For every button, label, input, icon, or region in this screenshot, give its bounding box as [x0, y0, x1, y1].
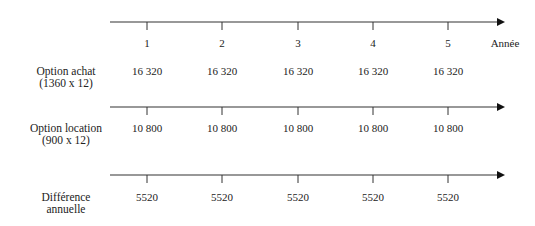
year-label: 3 — [288, 37, 308, 49]
value-cell: 16 320 — [343, 65, 403, 77]
year-label: 4 — [363, 37, 383, 49]
value-cell: 5520 — [268, 191, 328, 203]
value-cell: 5520 — [192, 191, 252, 203]
value-cell: 16 320 — [192, 65, 252, 77]
value-cell: 10 800 — [117, 122, 177, 134]
arrow-head-icon — [497, 171, 505, 179]
timeline-axis-2 — [110, 103, 505, 115]
year-label: 1 — [137, 37, 157, 49]
axis-unit-label: Année — [480, 37, 530, 49]
year-label: 5 — [438, 37, 458, 49]
value-cell: 10 800 — [192, 122, 252, 134]
row-label-location: Option location (900 x 12) — [11, 122, 121, 146]
value-cell: 10 800 — [343, 122, 403, 134]
value-cell: 16 320 — [268, 65, 328, 77]
value-cell: 5520 — [343, 191, 403, 203]
arrow-head-icon — [497, 18, 505, 26]
timeline-axis-1 — [110, 18, 505, 30]
timeline-axis-3 — [110, 171, 505, 183]
row-label-achat: Option achat (1360 x 12) — [11, 65, 121, 89]
value-cell: 5520 — [117, 191, 177, 203]
year-label: 2 — [212, 37, 232, 49]
value-cell: 10 800 — [268, 122, 328, 134]
value-cell: 16 320 — [418, 65, 478, 77]
value-cell: 16 320 — [117, 65, 177, 77]
value-cell: 10 800 — [418, 122, 478, 134]
arrow-head-icon — [497, 103, 505, 111]
row-label-difference: Différence annuelle — [11, 191, 121, 215]
value-cell: 5520 — [418, 191, 478, 203]
